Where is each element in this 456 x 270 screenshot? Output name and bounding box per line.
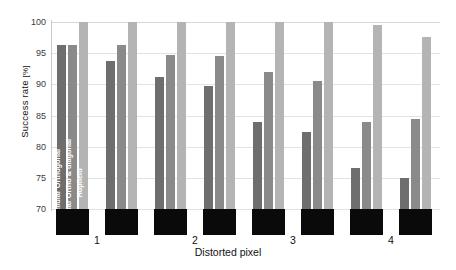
y-axis-tick-label: 70 bbox=[36, 204, 46, 214]
bar-fill bbox=[313, 81, 322, 209]
y-axis-tick-label: 95 bbox=[36, 48, 46, 58]
bar-fill bbox=[351, 168, 360, 209]
y-axis-unit-text: [%] bbox=[21, 65, 30, 77]
bar[interactable] bbox=[275, 22, 284, 209]
legend-label-2: Hopfield bbox=[75, 168, 84, 197]
y-axis-tick-label: 90 bbox=[36, 79, 46, 89]
y-axis-title-text: Success rate bbox=[19, 80, 30, 137]
bar[interactable] bbox=[324, 22, 333, 209]
bar-group bbox=[106, 22, 137, 209]
bar[interactable] bbox=[166, 22, 175, 209]
occlusion-block bbox=[252, 209, 285, 235]
bar-fill bbox=[204, 86, 213, 209]
x-axis-tick-label: 2 bbox=[192, 234, 198, 246]
bar-fill bbox=[226, 22, 235, 209]
occlusion-block bbox=[105, 209, 138, 235]
bar[interactable] bbox=[400, 22, 409, 209]
occlusion-block bbox=[56, 209, 89, 235]
occlusion-block bbox=[301, 209, 334, 235]
bar[interactable]: Hopfield bbox=[79, 22, 88, 209]
bar-fill bbox=[422, 37, 431, 209]
bar-fill bbox=[400, 178, 409, 209]
bar[interactable] bbox=[177, 22, 186, 209]
bar-fill bbox=[324, 22, 333, 209]
bar-group: Cellular OrthogonalCellular Ortho & diag… bbox=[57, 22, 88, 209]
bar[interactable] bbox=[351, 22, 360, 209]
bar[interactable] bbox=[422, 22, 431, 209]
x-axis-tick-label: 1 bbox=[94, 234, 100, 246]
legend-label-0: Cellular Orthogonal bbox=[53, 149, 62, 217]
bar-group bbox=[302, 22, 333, 209]
plot-area: 707580859095100 Cellular OrthogonalCellu… bbox=[52, 22, 440, 209]
occlusion-block bbox=[399, 209, 432, 235]
x-axis-title: Distorted pixel bbox=[0, 246, 456, 258]
bar[interactable] bbox=[106, 22, 115, 209]
bar[interactable] bbox=[313, 22, 322, 209]
y-axis-tick-label: 75 bbox=[36, 173, 46, 183]
occlusion-block bbox=[154, 209, 187, 235]
bar-fill bbox=[117, 45, 126, 209]
bar-fill bbox=[362, 122, 371, 209]
bar-fill bbox=[177, 22, 186, 209]
y-axis-tick-label: 85 bbox=[36, 111, 46, 121]
x-axis-tick-label: 4 bbox=[388, 234, 394, 246]
bar-group bbox=[155, 22, 186, 209]
bar-fill bbox=[302, 132, 311, 209]
bar-fill bbox=[373, 25, 382, 209]
bar[interactable] bbox=[264, 22, 273, 209]
bar[interactable] bbox=[362, 22, 371, 209]
y-axis-title: Success rate [%] bbox=[19, 32, 30, 172]
bar-fill bbox=[128, 22, 137, 209]
x-axis-tick-label: 3 bbox=[290, 234, 296, 246]
bar[interactable] bbox=[411, 22, 420, 209]
bar-group bbox=[253, 22, 284, 209]
bar[interactable] bbox=[373, 22, 382, 209]
bar-group bbox=[351, 22, 382, 209]
y-axis-tick-label: 100 bbox=[31, 17, 46, 27]
bar-fill bbox=[106, 61, 115, 209]
bar-fill bbox=[275, 22, 284, 209]
bar-fill bbox=[215, 56, 224, 209]
bar[interactable] bbox=[128, 22, 137, 209]
bar-fill bbox=[166, 55, 175, 209]
bar-fill bbox=[264, 72, 273, 209]
bar[interactable] bbox=[253, 22, 262, 209]
occlusion-block bbox=[350, 209, 383, 235]
occlusion-block bbox=[203, 209, 236, 235]
bar-fill bbox=[155, 77, 164, 209]
bar-group bbox=[204, 22, 235, 209]
bar-groups: Cellular OrthogonalCellular Ortho & diag… bbox=[52, 22, 440, 209]
bar[interactable] bbox=[155, 22, 164, 209]
bar-chart: Success rate [%] 707580859095100 Cellula… bbox=[0, 0, 456, 270]
bar[interactable] bbox=[204, 22, 213, 209]
bar[interactable] bbox=[215, 22, 224, 209]
bar-fill bbox=[253, 122, 262, 209]
bar-group bbox=[400, 22, 431, 209]
bar[interactable] bbox=[117, 22, 126, 209]
bar[interactable] bbox=[302, 22, 311, 209]
y-axis-tick-label: 80 bbox=[36, 142, 46, 152]
bar-fill bbox=[411, 119, 420, 209]
bar[interactable] bbox=[226, 22, 235, 209]
